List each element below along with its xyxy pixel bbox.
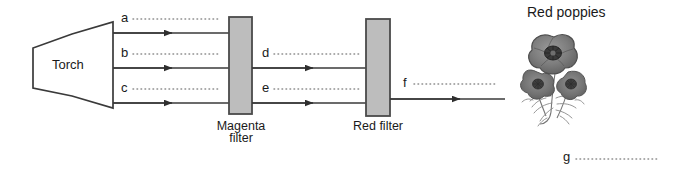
- poppy-illustration: [521, 35, 587, 126]
- ray-label-a: a: [121, 11, 128, 24]
- ray-label-f: f: [403, 76, 407, 89]
- ray-label-d: d: [262, 46, 269, 59]
- ray-label-e: e: [262, 81, 269, 94]
- ray-group-f: [390, 84, 505, 99]
- ray-label-c: c: [121, 81, 128, 94]
- light-filters-diagram: Torch a b c d e f Magenta filter Red fil…: [0, 0, 684, 171]
- ray-group-de: [252, 54, 366, 103]
- magenta-filter-label-line2: filter: [206, 132, 276, 145]
- magenta-filter-shape: [229, 17, 252, 114]
- ray-label-b: b: [121, 46, 128, 59]
- red-filter-shape: [366, 19, 390, 116]
- red-filter-label: Red filter: [343, 120, 413, 133]
- poppy-flower-main: [529, 35, 577, 74]
- diagram-canvas: [0, 0, 684, 171]
- poppy-flower-right: [557, 71, 587, 99]
- torch-label: Torch: [52, 58, 84, 71]
- red-poppies-label: Red poppies: [527, 5, 606, 19]
- answer-label-g: g: [563, 150, 570, 163]
- ray-group-abc: [113, 19, 229, 103]
